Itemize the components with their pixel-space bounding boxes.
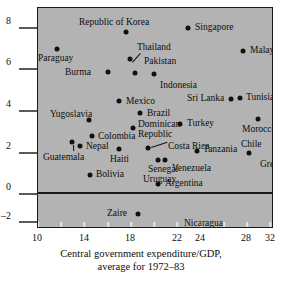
x-tick-30	[269, 222, 271, 227]
data-point	[247, 151, 252, 156]
point-label-indonesia: Indonesia	[160, 80, 197, 90]
x-axis-label-line2: average for 1972–83	[0, 261, 282, 274]
point-label-paraguay: Paraguay	[38, 53, 73, 63]
data-point	[241, 49, 246, 54]
x-tick-22	[176, 222, 178, 227]
data-point	[186, 26, 191, 31]
point-label-nicaragua: Nicaragua	[184, 218, 223, 228]
x-axis-label: Central government expenditure/GDP, aver…	[0, 248, 282, 273]
x-tick-label-14: 14	[79, 232, 89, 243]
y-tick-line-4	[19, 110, 39, 112]
data-point	[152, 72, 157, 77]
x-tick-14	[83, 222, 85, 227]
data-point	[117, 99, 122, 104]
point-label-tunisia: Tunisia	[246, 92, 273, 102]
point-label-malaysia: Malaysia	[250, 45, 273, 55]
data-point	[138, 111, 143, 116]
point-label-brazil: Brazil	[147, 108, 170, 118]
x-tick-28	[246, 222, 248, 227]
data-point	[238, 96, 243, 101]
data-point	[90, 134, 95, 139]
x-tick-label-24: 24	[195, 232, 205, 243]
point-label-pakistan: Pakistan	[144, 56, 176, 66]
data-point	[163, 158, 168, 163]
point-label-sri-lanka: Sri Lanka	[187, 93, 224, 103]
y-tick-line-6	[19, 68, 39, 70]
x-tick-20	[153, 222, 155, 227]
leader-line-costa-rica	[151, 142, 167, 148]
point-label-greece: Greece	[260, 159, 273, 169]
y-tick-line-2	[19, 152, 39, 154]
x-tick-label-22: 22	[172, 232, 182, 243]
x-tick-label-32: 32	[265, 232, 275, 243]
point-label-colombia: Colombia	[98, 131, 135, 141]
y-tick-label-2: 2	[6, 140, 11, 151]
data-point	[124, 30, 129, 35]
point-label-argentina: Argentina	[165, 178, 203, 188]
x-tick-18	[130, 222, 132, 227]
x-tick-label-18: 18	[125, 232, 135, 243]
x-tick-label-28: 28	[241, 232, 251, 243]
point-label-dominican-republic: Dominican Republic	[138, 120, 194, 139]
point-label-singapore: Singapore	[195, 22, 234, 32]
data-point	[131, 126, 136, 131]
y-tick-label-4: 4	[6, 98, 11, 109]
y-tick-line-8	[19, 27, 39, 29]
data-point	[88, 173, 93, 178]
x-tick-10	[37, 222, 39, 227]
point-label-haiti: Haiti	[110, 154, 129, 164]
point-label-guatemala: Guatemala	[43, 152, 84, 162]
data-point	[156, 158, 161, 163]
leader-line-thailand	[132, 53, 141, 63]
y-tick-label-0: 0	[6, 181, 11, 192]
data-point	[55, 47, 60, 52]
data-point	[70, 140, 75, 145]
y-tick-line-0	[19, 193, 39, 195]
data-point	[136, 212, 141, 217]
data-point	[78, 144, 83, 149]
data-point	[106, 70, 111, 75]
x-tick-16	[107, 222, 109, 227]
data-point	[146, 146, 151, 151]
y-tick-label-minus2: –2	[1, 210, 11, 221]
zero-reference-line	[38, 192, 272, 194]
data-point	[133, 71, 138, 76]
point-label-chile: Chile	[241, 139, 262, 149]
point-label-tanzania: Tanzania	[203, 144, 237, 154]
point-label-nepal: Nepal	[86, 141, 109, 151]
point-label-bolivia: Bolivia	[96, 169, 124, 179]
point-label-burma: Burma	[65, 67, 91, 77]
plot-area: Republic of Korea Singapore Paraguay Tha…	[37, 7, 273, 228]
data-point	[117, 147, 122, 152]
point-label-republic-of-korea: Republic of Korea	[79, 17, 149, 27]
data-point	[229, 97, 234, 102]
point-label-mexico: Mexico	[126, 96, 155, 106]
scatter-chart: 8 6 4 2 0 –2	[0, 0, 282, 281]
y-tick-label-6: 6	[6, 56, 11, 67]
y-tick-label-8: 8	[6, 15, 11, 26]
y-tick-line-minus2	[19, 221, 39, 223]
x-tick-26	[223, 222, 225, 227]
x-tick-label-10: 10	[32, 232, 42, 243]
point-label-morocco: Morocco	[242, 124, 273, 134]
point-label-thailand: Thailand	[137, 42, 171, 52]
x-tick-12	[60, 222, 62, 227]
point-label-yugoslavia: Yugoslavia	[50, 109, 92, 119]
x-axis-label-line1: Central government expenditure/GDP,	[0, 248, 282, 261]
data-point	[256, 117, 261, 122]
point-label-zaire: Zaire	[107, 208, 127, 218]
leader-line-guatemala	[73, 145, 74, 151]
point-label-venezuela: Venezuela	[172, 163, 211, 173]
